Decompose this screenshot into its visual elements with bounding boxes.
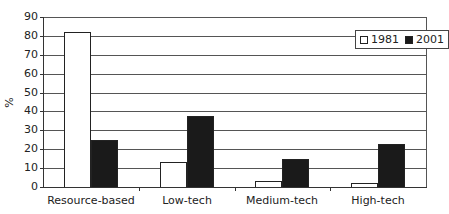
gridline [43,130,426,131]
y-tick-label: 60 [0,68,38,80]
legend: 1981 2001 [355,30,449,49]
bar-1981-low-tech [160,162,187,188]
legend-swatch-2001 [405,36,413,44]
bar-2001-resource-based [91,140,118,188]
x-tick-mark [139,187,140,191]
y-tick-label: 40 [0,105,38,117]
y-axis-line [43,17,44,188]
x-tick-label: Resource-based [43,194,139,207]
bar-1981-resource-based [64,32,91,188]
y-tick-label: 10 [0,162,38,174]
bar-2001-high-tech [378,144,405,188]
y-tick-label: 90 [0,11,38,23]
legend-swatch-1981 [360,36,368,44]
y-tick-label: 70 [0,49,38,61]
x-tick-mark [235,187,236,191]
gridline [43,55,426,56]
y-tick-label: 50 [0,87,38,99]
x-tick-label: Low-tech [139,194,235,207]
y-tick-label: 20 [0,143,38,155]
x-tick-label: High-tech [330,194,426,207]
gridline [43,74,426,75]
y-tick-label: 30 [0,124,38,136]
y-tick-label: 80 [0,30,38,42]
bar-2001-low-tech [187,116,214,188]
legend-label-1981: 1981 [371,33,399,46]
gridline [43,111,426,112]
x-tick-label: Medium-tech [234,194,330,207]
bar-2001-medium-tech [282,159,309,188]
y-tick-label: 0 [0,181,38,193]
gridline [43,17,426,18]
gridline [43,93,426,94]
x-tick-mark [330,187,331,191]
legend-label-2001: 2001 [416,33,444,46]
